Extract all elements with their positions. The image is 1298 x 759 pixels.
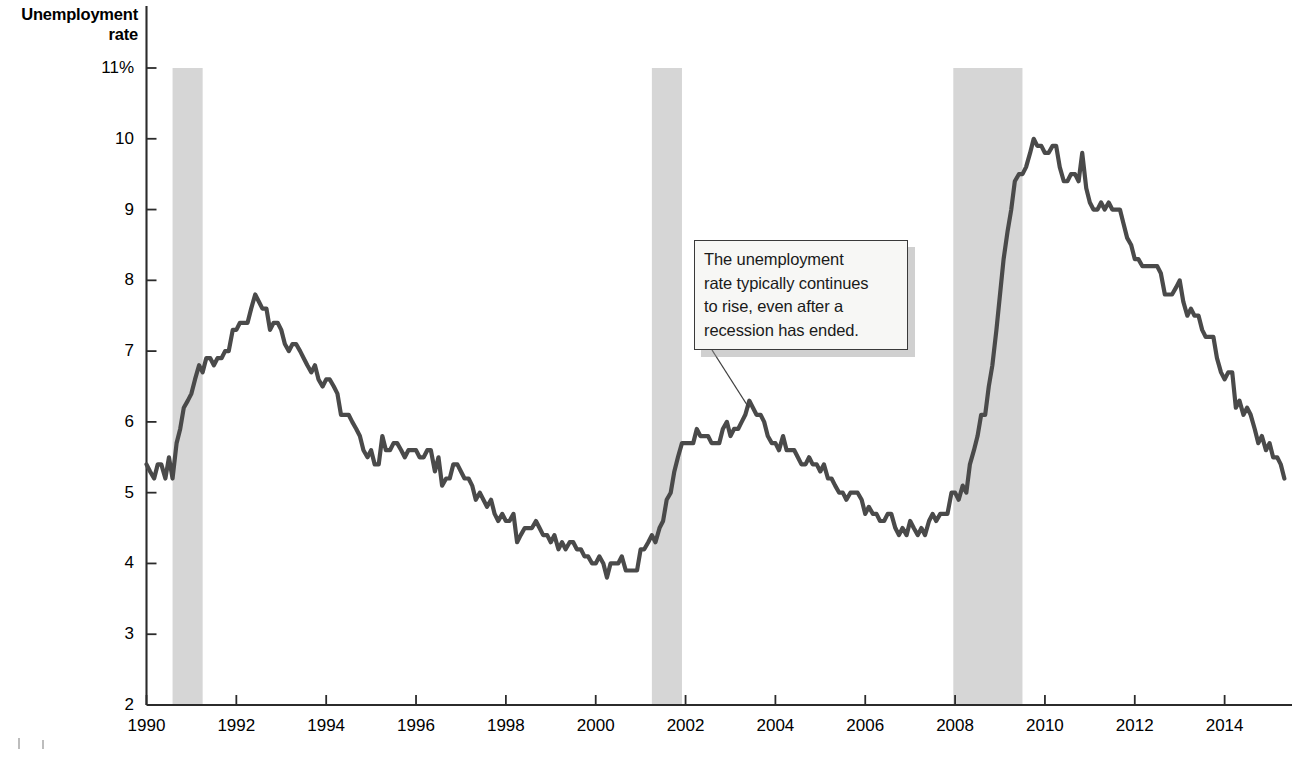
annotation-line-1: The unemployment <box>704 248 899 272</box>
annotation-line-3: to rise, even after a <box>704 295 899 319</box>
annotation-leader <box>0 0 1298 759</box>
annotation-callout: The unemployment rate typically continue… <box>694 240 908 350</box>
unemployment-rate-chart: Unemployment rate 11%1098765432 19901992… <box>0 0 1298 759</box>
annotation-line-2: rate typically continues <box>704 272 899 296</box>
annotation-line-4: recession has ended. <box>704 319 899 343</box>
annotation-leader-line <box>712 350 749 408</box>
